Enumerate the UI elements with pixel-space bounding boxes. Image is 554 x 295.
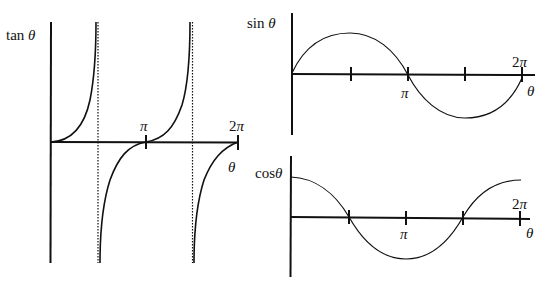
sin-x-axis [292, 74, 535, 75]
cos-x-axis [291, 217, 530, 219]
cos-y-label: cosθ [255, 165, 283, 181]
sin-y-label: sin θ [247, 15, 276, 31]
tan-tick-label-2pi: 2π [229, 118, 245, 134]
tan-branch-1 [51, 22, 96, 142]
tan-x-label: θ [228, 159, 236, 175]
tan-y-label: tan θ [6, 27, 36, 43]
cos-panel: cosθ π 2π θ [255, 156, 534, 277]
tan-tick-label-pi: π [140, 118, 148, 134]
trig-graphs-figure: tan θ π 2π θ sin θ π 2π θ cosθ π 2π θ [0, 0, 554, 295]
sin-x-label: θ [527, 83, 535, 99]
tan-panel: tan θ π 2π θ [6, 22, 245, 263]
tan-y-axis [51, 22, 52, 263]
cos-y-axis [291, 156, 292, 277]
sin-panel: sin θ π 2π θ [247, 13, 535, 135]
cos-tick-label-2pi: 2π [512, 196, 528, 212]
sin-tick-label-pi: π [401, 85, 409, 101]
cos-x-label: θ [526, 225, 534, 241]
cos-tick-label-pi: π [400, 226, 408, 242]
sin-tick-label-2pi: 2π [512, 54, 528, 70]
